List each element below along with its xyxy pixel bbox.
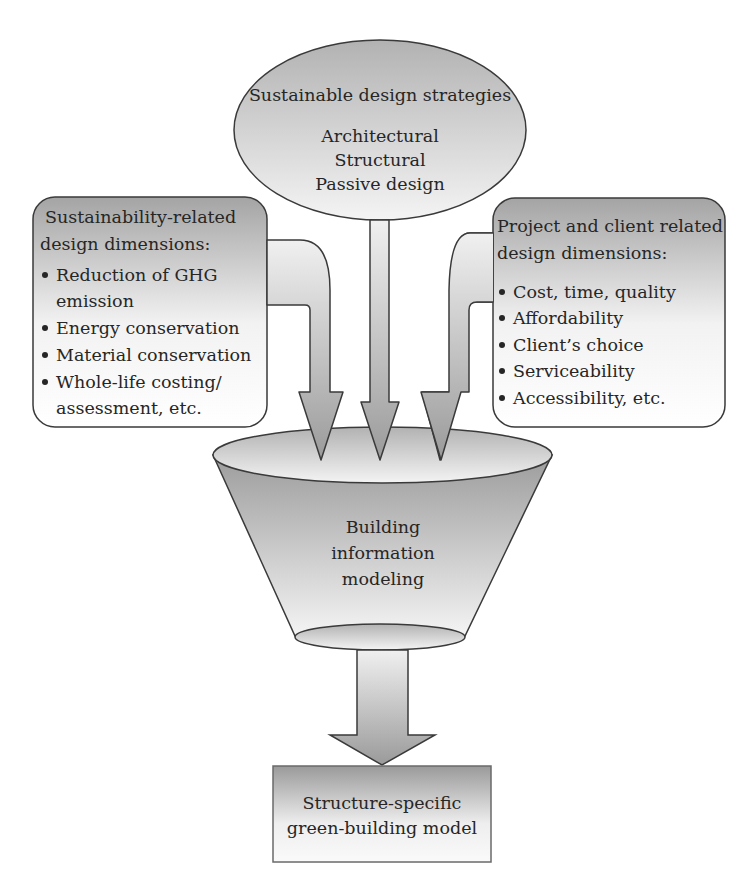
sustainability-bullet-material: Material conservation (56, 345, 251, 365)
sustainability-bullet-ghg-cont: emission (56, 291, 134, 311)
project-bullet-client-choice: Client’s choice (513, 335, 644, 355)
project-bullet-accessibility: Accessibility, etc. (512, 388, 666, 408)
strategy-structural: Structural (334, 150, 426, 170)
bullet-icon (42, 352, 48, 358)
bullet-icon (499, 342, 505, 348)
green-building-model-box: Structure-specific green-building model (273, 766, 491, 862)
project-bullet-serviceability: Serviceability (513, 361, 635, 381)
curved-arrow-left-icon (267, 240, 343, 460)
strategy-architectural: Architectural (320, 126, 439, 146)
output-arrow-icon (330, 650, 435, 765)
project-client-dimensions-box: Project and client related design dimens… (493, 198, 725, 427)
bullet-icon (499, 315, 505, 321)
funnel-label-line-2: information (331, 543, 435, 563)
funnel-bottom-rim (295, 624, 465, 650)
project-title-line-1: Project and client related (497, 216, 723, 236)
curved-arrow-right-body (421, 233, 493, 460)
funnel-label-line-1: Building (346, 517, 421, 537)
bullet-icon (42, 272, 48, 278)
output-label-line-1: Structure-specific (303, 793, 462, 813)
bullet-icon (42, 325, 48, 331)
bullet-icon (499, 368, 505, 374)
project-bullet-cost: Cost, time, quality (513, 282, 676, 302)
bullet-icon (499, 395, 505, 401)
sustainability-title-line-1: Sustainability-related (45, 207, 236, 227)
project-title-line-2: design dimensions: (497, 243, 667, 263)
sustainable-design-strategies-ellipse: Sustainable design strategies Architectu… (234, 40, 526, 220)
sustainability-title-line-2: design dimensions: (40, 234, 210, 254)
sustainability-dimensions-box: Sustainability-related design dimensions… (33, 197, 267, 427)
output-label-line-2: green-building model (287, 818, 478, 838)
bullet-icon (42, 379, 48, 385)
diagram-canvas: Sustainability-related design dimensions… (0, 0, 752, 888)
sustainability-bullet-wholelife-cont: assessment, etc. (56, 398, 202, 418)
sustainability-bullet-wholelife: Whole-life costing/ (56, 372, 222, 392)
project-bullet-affordability: Affordability (512, 308, 623, 328)
funnel-label-line-3: modeling (342, 569, 424, 589)
bullet-icon (499, 289, 505, 295)
sustainability-bullet-ghg: Reduction of GHG (56, 265, 218, 285)
straight-arrow-center-icon (361, 220, 399, 460)
strategies-title: Sustainable design strategies (249, 85, 511, 105)
sustainability-bullet-energy: Energy conservation (56, 318, 240, 338)
bim-funnel: Building information modeling (213, 427, 552, 650)
strategy-passive-design: Passive design (315, 174, 444, 194)
